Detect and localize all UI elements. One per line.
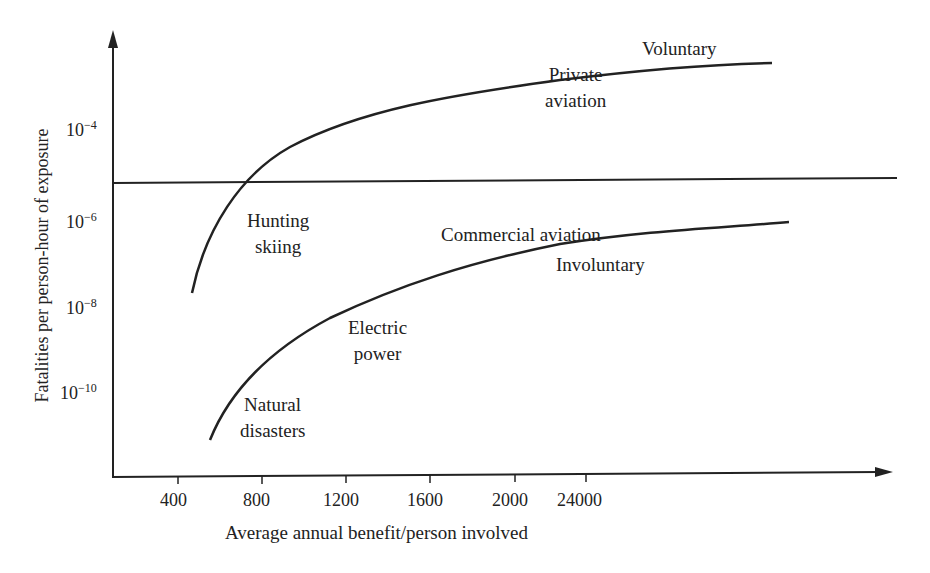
y-axis-arrow-icon xyxy=(108,30,118,48)
x-tick-800: 800 xyxy=(243,490,270,511)
label-private-aviation: Private aviation xyxy=(545,62,606,114)
threshold-line xyxy=(113,178,897,183)
x-tick-400: 400 xyxy=(160,490,187,511)
x-tick-24000: 24000 xyxy=(557,490,602,511)
label-commercial-aviation: Commercial aviation xyxy=(441,224,601,246)
x-axis-label: Average annual benefit/person involved xyxy=(225,522,528,544)
label-hunting-skiing: Hunting skiing xyxy=(247,208,309,260)
y-axis-label: Fatalities per person-hour of exposure xyxy=(32,106,53,426)
y-tick-1e-6: 10−6 xyxy=(66,210,97,233)
y-tick-1e-8: 10−8 xyxy=(66,296,97,319)
label-involuntary: Involuntary xyxy=(556,254,645,276)
label-electric-power: Electric power xyxy=(348,315,407,367)
x-axis xyxy=(112,472,880,477)
risk-benefit-chart xyxy=(0,0,930,573)
x-tick-1600: 1600 xyxy=(407,490,443,511)
x-tick-1200: 1200 xyxy=(323,490,359,511)
y-tick-1e-10: 10−10 xyxy=(60,381,97,404)
y-tick-1e-4: 10−4 xyxy=(66,118,97,141)
x-tick-2000: 2000 xyxy=(492,490,528,511)
x-axis-arrow-icon xyxy=(875,467,893,477)
label-voluntary: Voluntary xyxy=(642,38,717,60)
label-natural-disasters: Natural disasters xyxy=(240,392,305,444)
